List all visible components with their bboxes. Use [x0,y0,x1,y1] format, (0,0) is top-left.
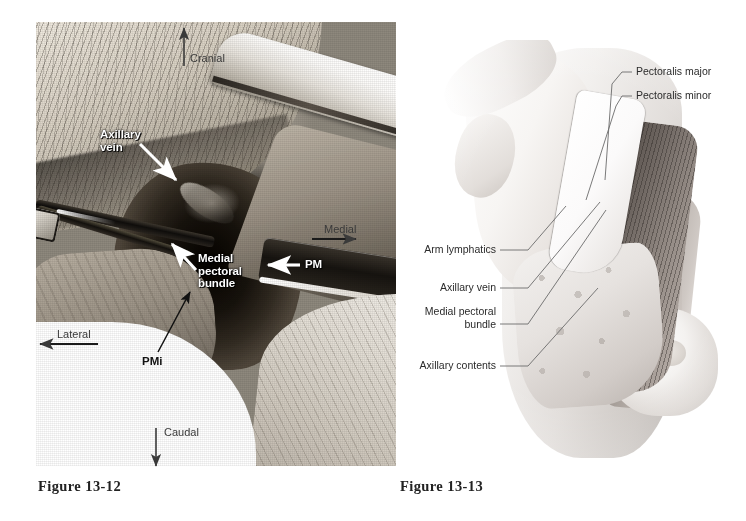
figure-page: Axillary vein Medial pectoral bundle PM … [0,0,746,521]
caption-figure-13-12: Figure 13-12 [38,478,121,495]
caption-figure-13-13: Figure 13-13 [400,478,483,495]
photo-label-medial-pectoral-bundle: Medial pectoral bundle [198,252,242,290]
illus-label-arm-lymphatics: Arm lymphatics [400,243,496,256]
orientation-label-cranial: Cranial [190,52,225,64]
orientation-label-caudal: Caudal [164,426,199,438]
photo-label-pm: PM [305,258,322,271]
illus-label-axillary-contents: Axillary contents [400,359,496,372]
axillary-vein-arrow [140,144,176,180]
figure-13-12: Axillary vein Medial pectoral bundle PM … [0,0,400,521]
photo-label-pmi: PMi [142,355,162,368]
illus-label-pectoralis-major: Pectoralis major [636,65,711,78]
illus-label-pectoralis-minor: Pectoralis minor [636,89,711,102]
photo-label-axillary-vein: Axillary vein [100,128,141,153]
orientation-label-medial: Medial [324,223,356,235]
illus-label-axillary-vein: Axillary vein [400,281,496,294]
illus-label-medial-pectoral-bundle: Medial pectoral bundle [400,305,496,330]
medial-pectoral-bundle-arrow [172,244,196,270]
figure-13-13: Pectoralis major Pectoralis minor Arm ly… [400,0,746,521]
pmi-leader-line [158,292,190,352]
orientation-label-lateral: Lateral [57,328,91,340]
